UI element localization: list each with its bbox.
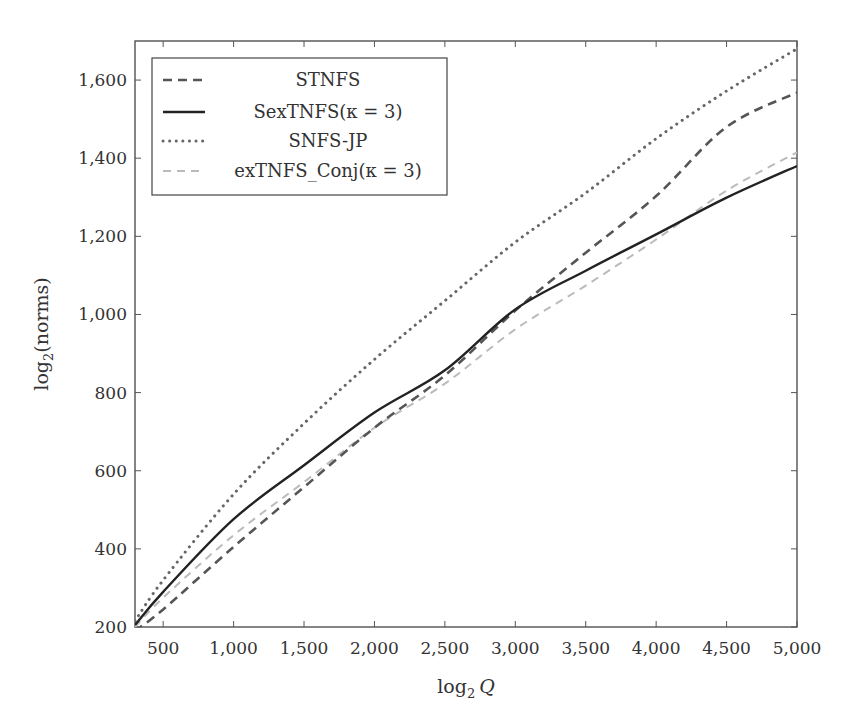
legend: STNFSSexTNFS(κ = 3)SNFS-JPexTNFS_Conj(κ …: [152, 58, 447, 195]
x-tick-label: 2,500: [421, 638, 470, 658]
series-line-sextnfs-3: [135, 166, 797, 625]
y-tick-label: 1,400: [78, 148, 127, 168]
y-tick-label: 1,200: [78, 226, 127, 246]
x-tick-label: 1,000: [209, 638, 258, 658]
legend-label: exTNFS_Conj(κ = 3): [234, 160, 421, 182]
line-chart: 5001,0001,5002,0002,5003,0003,5004,0004,…: [0, 0, 855, 727]
x-tick-label: 3,000: [491, 638, 540, 658]
y-tick-label: 1,000: [78, 304, 127, 324]
y-tick-label: 200: [95, 617, 127, 637]
y-tick-label: 800: [95, 383, 127, 403]
legend-label: STNFS: [296, 69, 361, 90]
x-tick-label: 4,000: [632, 638, 681, 658]
series-line-extnfs-conj-3: [135, 152, 797, 627]
legend-label: SexTNFS(κ = 3): [254, 101, 403, 122]
x-tick-label: 4,500: [702, 638, 751, 658]
x-tick-label: 3,500: [561, 638, 610, 658]
x-tick-label: 500: [147, 638, 179, 658]
y-axis-label: log2(norms): [30, 277, 56, 390]
x-tick-label: 2,000: [350, 638, 399, 658]
y-tick-label: 400: [95, 539, 127, 559]
x-axis-label: log2Q: [437, 675, 495, 701]
x-tick-label: 1,500: [280, 638, 329, 658]
legend-label: SNFS-JP: [289, 130, 368, 151]
x-tick-label: 5,000: [773, 638, 822, 658]
y-tick-label: 600: [95, 461, 127, 481]
y-tick-label: 1,600: [78, 70, 127, 90]
